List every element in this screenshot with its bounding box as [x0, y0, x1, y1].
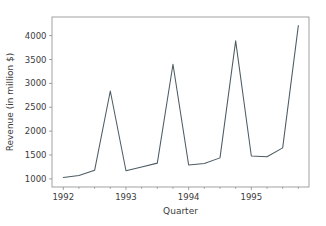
line-chart: 1992199319941995 10001500200025003000350… — [0, 0, 326, 226]
y-tick-label: 2000 — [25, 126, 47, 136]
y-tick-label: 2500 — [25, 102, 47, 112]
chart-figure: 1992199319941995 10001500200025003000350… — [0, 0, 326, 226]
x-tick-label: 1994 — [178, 192, 200, 202]
y-tick-label: 1000 — [25, 174, 47, 184]
x-tick-label: 1992 — [52, 192, 74, 202]
y-axis-title: Revenue (in million $) — [5, 53, 15, 152]
y-tick-label: 4000 — [25, 31, 47, 41]
y-tick-label: 3500 — [25, 55, 47, 65]
y-tick-label: 1500 — [25, 150, 47, 160]
x-tick-label: 1993 — [115, 192, 137, 202]
y-tick-label: 3000 — [25, 78, 47, 88]
plot-area-background — [52, 17, 309, 187]
x-tick-label: 1995 — [241, 192, 263, 202]
x-axis-title: Quarter — [163, 206, 198, 216]
